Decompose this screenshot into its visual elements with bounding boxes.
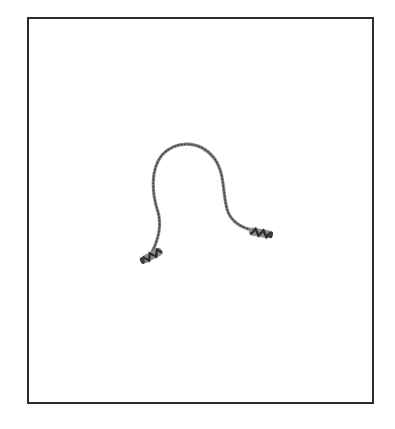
jump-rope-image <box>0 0 395 429</box>
left-handle <box>139 247 164 265</box>
rope <box>152 144 252 252</box>
right-handle <box>248 227 273 239</box>
